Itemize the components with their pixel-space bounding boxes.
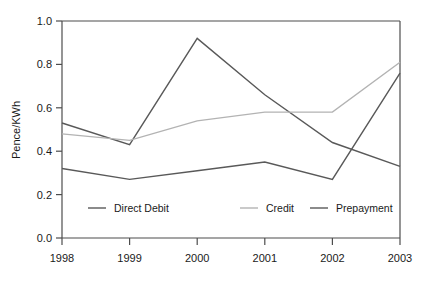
y-tick-label-0.4: 0.4 <box>37 145 52 157</box>
legend-label-direct-debit: Direct Debit <box>114 202 169 214</box>
line-chart: 1.0 0.8 0.6 0.4 0.2 0.0 1998 1999 2000 2… <box>0 0 429 286</box>
chart-legend: Direct DebitCreditPrepayment <box>88 202 393 214</box>
series-line-direct-debit <box>62 38 400 166</box>
y-tick-label-0.6: 0.6 <box>37 102 52 114</box>
x-tick-label-2000: 2000 <box>185 252 209 264</box>
y-tick-label-0.2: 0.2 <box>37 189 52 201</box>
x-tick-label-2001: 2001 <box>253 252 277 264</box>
series-line-credit <box>62 62 400 140</box>
legend-label-credit: Credit <box>266 202 294 214</box>
x-tick-label-1999: 1999 <box>117 252 141 264</box>
legend-item-credit[interactable]: Credit <box>240 202 294 214</box>
y-tick-label-0.8: 0.8 <box>37 58 52 70</box>
x-tick-label-1998: 1998 <box>50 252 74 264</box>
series-layer <box>62 38 400 179</box>
y-tick-labels: 1.0 0.8 0.6 0.4 0.2 0.0 <box>37 15 52 244</box>
y-axis-title: Pence/KWh <box>10 101 22 159</box>
y-tick-label-0.0: 0.0 <box>37 232 52 244</box>
x-tick-label-2002: 2002 <box>320 252 344 264</box>
y-tick-label-1.0: 1.0 <box>37 15 52 27</box>
legend-item-direct-debit[interactable]: Direct Debit <box>88 202 169 214</box>
x-tick-labels: 1998 1999 2000 2001 2002 2003 <box>50 252 412 264</box>
y-tick-group <box>56 21 62 238</box>
x-tick-label-2003: 2003 <box>388 252 412 264</box>
series-line-prepayment <box>62 73 400 179</box>
legend-label-prepayment: Prepayment <box>336 202 393 214</box>
legend-item-prepayment[interactable]: Prepayment <box>310 202 393 214</box>
chart-canvas: 1.0 0.8 0.6 0.4 0.2 0.0 1998 1999 2000 2… <box>0 0 429 286</box>
x-tick-group <box>62 238 400 245</box>
